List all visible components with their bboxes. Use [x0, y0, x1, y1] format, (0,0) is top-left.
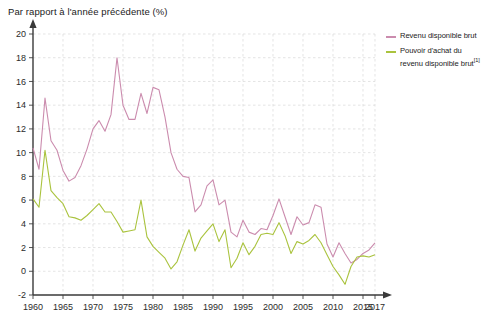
chart-legend: Revenu disponible brut Pouvoir d'achat d… — [386, 31, 485, 73]
svg-text:10: 10 — [16, 148, 26, 158]
chart-container: Par rapport à l'année précédente (%) -20… — [0, 0, 485, 321]
svg-text:1970: 1970 — [83, 302, 103, 312]
svg-text:14: 14 — [16, 100, 26, 110]
svg-text:2017: 2017 — [365, 302, 385, 312]
svg-text:1960: 1960 — [23, 302, 43, 312]
legend-swatch-icon — [386, 36, 396, 38]
svg-text:6: 6 — [21, 195, 26, 205]
svg-text:20: 20 — [16, 29, 26, 39]
legend-footnote-marker: [1] — [474, 57, 480, 63]
svg-text:12: 12 — [16, 124, 26, 134]
x-axis: 1960196519701975198019851990199520002005… — [23, 291, 392, 312]
svg-text:0: 0 — [21, 266, 26, 276]
svg-text:8: 8 — [21, 172, 26, 182]
svg-text:4: 4 — [21, 219, 26, 229]
svg-text:1985: 1985 — [173, 302, 193, 312]
svg-text:16: 16 — [16, 77, 26, 87]
legend-label: Pouvoir d'achat du revenu disponible bru… — [400, 46, 485, 69]
svg-text:1980: 1980 — [143, 302, 163, 312]
svg-text:2005: 2005 — [293, 302, 313, 312]
svg-text:18: 18 — [16, 53, 26, 63]
svg-text:2: 2 — [21, 243, 26, 253]
gridlines — [33, 34, 375, 295]
legend-item-revenu: Revenu disponible brut — [386, 31, 485, 42]
legend-item-pouvoir-achat: Pouvoir d'achat du revenu disponible bru… — [386, 46, 485, 69]
svg-text:1975: 1975 — [113, 302, 133, 312]
svg-text:2010: 2010 — [323, 302, 343, 312]
svg-text:1965: 1965 — [53, 302, 73, 312]
svg-text:-2: -2 — [18, 290, 26, 300]
svg-text:1995: 1995 — [233, 302, 253, 312]
data-series — [33, 58, 375, 285]
svg-text:2000: 2000 — [263, 302, 283, 312]
legend-swatch-icon — [386, 51, 396, 53]
y-axis: -202468101214161820 — [16, 19, 37, 300]
svg-text:1990: 1990 — [203, 302, 223, 312]
legend-label: Revenu disponible brut — [400, 31, 477, 42]
